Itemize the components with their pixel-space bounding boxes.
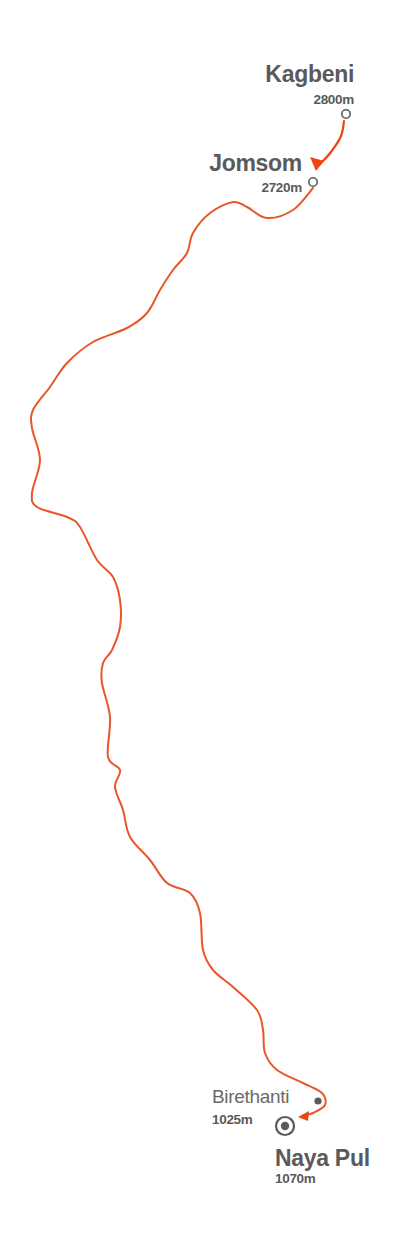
stop-elevation-kagbeni: 2800m xyxy=(313,93,354,107)
trek-route-map xyxy=(0,0,402,1250)
stop-name-naya-pul: Naya Pul xyxy=(275,1147,370,1170)
stop-name-birethanti: Birethanti xyxy=(212,1087,289,1106)
route-segment-kagbeni-jomsom xyxy=(320,121,344,164)
stop-name-jomsom: Jomsom xyxy=(209,152,302,175)
birethanti-marker-icon xyxy=(314,1097,321,1104)
stop-elevation-jomsom: 2720m xyxy=(261,181,302,195)
route-path xyxy=(31,188,326,1116)
arrowhead-icon xyxy=(298,1111,309,1121)
stop-elevation-naya-pul: 1070m xyxy=(275,1172,316,1186)
jomsom-marker-icon xyxy=(309,178,317,186)
naya-pul-target-icon xyxy=(276,1117,294,1135)
kagbeni-marker-icon xyxy=(342,110,350,118)
stop-name-kagbeni: Kagbeni xyxy=(265,63,354,86)
arrowhead-icon xyxy=(310,157,324,171)
stop-elevation-birethanti: 1025m xyxy=(212,1113,253,1127)
